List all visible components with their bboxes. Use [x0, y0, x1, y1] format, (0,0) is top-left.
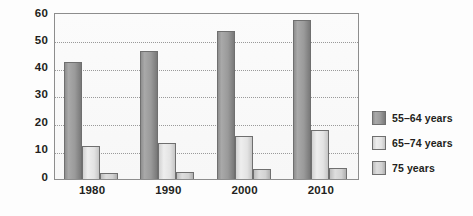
bar: [140, 51, 158, 179]
bar: [158, 143, 176, 179]
legend-item: 75 years: [372, 157, 472, 178]
y-tick-label: 20: [8, 117, 48, 129]
bar-group: [293, 14, 347, 179]
bar: [235, 136, 253, 179]
bar: [82, 146, 100, 179]
bar: [293, 20, 311, 179]
x-axis: 1980199020002010: [54, 185, 359, 205]
bar-group: [140, 14, 194, 179]
y-tick-label: 50: [8, 35, 48, 47]
legend-swatch-icon: [372, 161, 386, 175]
bar: [217, 31, 235, 179]
x-tick-label: 2010: [283, 185, 359, 197]
x-tick-label: 1980: [54, 185, 130, 197]
legend-label: 75 years: [392, 162, 435, 174]
bar-group: [217, 14, 271, 179]
x-tick-label: 2000: [207, 185, 283, 197]
bars-layer: [55, 14, 358, 179]
y-tick-label: 0: [8, 172, 48, 184]
bar: [64, 62, 82, 179]
y-tick-label: 30: [8, 89, 48, 101]
bar-group: [64, 14, 118, 179]
x-tick-label: 1990: [130, 185, 206, 197]
legend-swatch-icon: [372, 136, 386, 150]
legend: 55–64 years 65–74 years 75 years: [372, 107, 472, 182]
bar: [253, 169, 271, 179]
bar: [329, 168, 347, 179]
legend-item: 55–64 years: [372, 107, 472, 128]
bar: [176, 172, 194, 179]
legend-label: 55–64 years: [392, 112, 453, 124]
y-tick-label: 40: [8, 62, 48, 74]
bar: [311, 130, 329, 179]
plot-area: [54, 13, 359, 180]
bar: [100, 173, 118, 179]
y-axis: 60 50 40 30 20 10 0: [8, 0, 48, 216]
legend-swatch-icon: [372, 111, 386, 125]
y-tick-label: 60: [8, 8, 48, 20]
legend-label: 65–74 years: [392, 137, 453, 149]
y-tick-label: 10: [8, 144, 48, 156]
legend-item: 65–74 years: [372, 132, 472, 153]
bar-chart: 60 50 40 30 20 10 0 1980199020002010 55–…: [0, 0, 473, 216]
